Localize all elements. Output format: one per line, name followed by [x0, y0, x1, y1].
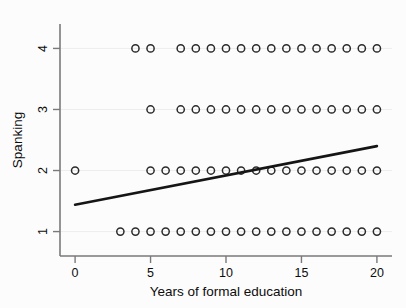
y-tick-label: 4 [36, 45, 50, 52]
plot-canvas: 1234 05101520 Years of formal education … [0, 0, 406, 308]
y-tick-label: 2 [36, 167, 50, 174]
scatter-plot-figure: 1234 05101520 Years of formal education … [0, 0, 406, 308]
x-tick-label: 10 [219, 266, 233, 280]
x-tick-label: 20 [370, 266, 384, 280]
x-tick-label: 15 [295, 266, 309, 280]
y-axis-title: Spanking [10, 112, 25, 168]
x-tick-label: 0 [72, 266, 79, 280]
y-tick-label: 3 [36, 106, 50, 113]
figure-background [0, 0, 406, 308]
y-tick-label: 1 [36, 228, 50, 235]
x-axis-title: Years of formal education [150, 284, 303, 299]
x-tick-label: 5 [147, 266, 154, 280]
